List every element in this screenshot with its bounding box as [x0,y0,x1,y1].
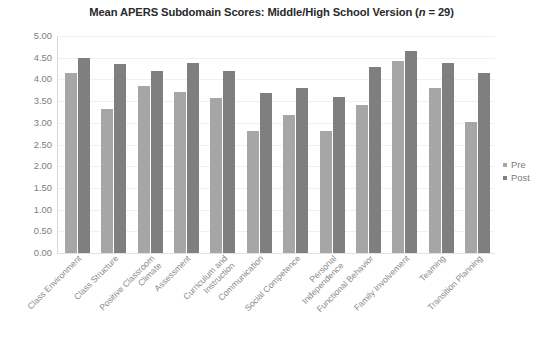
bar-pre[interactable] [392,61,404,253]
bar-pre[interactable] [174,92,186,253]
bar-pre[interactable] [465,122,477,254]
bar-chart: Mean APERS Subdomain Scores: Middle/High… [0,0,543,338]
bar-group [138,36,163,253]
legend-swatch-icon [503,163,507,167]
legend-item-pre[interactable]: Pre [503,158,543,171]
legend-label: Post [511,173,530,182]
legend-item-post[interactable]: Post [503,171,543,184]
y-tick-label: 0.50 [8,226,52,235]
chart-legend: PrePost [503,158,543,184]
bar-group [174,36,199,253]
bar-group [210,36,235,253]
bar-group [392,36,417,253]
bar-group [101,36,126,253]
bar-group [356,36,381,253]
bar-post[interactable] [260,93,272,253]
legend-swatch-icon [503,176,507,180]
bar-pre[interactable] [210,98,222,253]
y-tick-label: 0.00 [8,248,52,257]
bar-post[interactable] [478,73,490,253]
bar-post[interactable] [151,71,163,253]
y-tick-label: 3.00 [8,118,52,127]
bar-group [247,36,272,253]
bar-post[interactable] [333,97,345,253]
bar-pre[interactable] [101,109,113,253]
x-axis-tick-labels: Class EnvironmentClass StructurePositive… [58,254,495,338]
bar-post[interactable] [223,71,235,253]
plot-area [58,36,495,253]
bar-pre[interactable] [283,115,295,253]
y-tick-label: 3.50 [8,96,52,105]
y-tick-label: 1.00 [8,205,52,214]
bar-pre[interactable] [429,88,441,253]
bar-post[interactable] [114,64,126,253]
title-sample-size-symbol: n [419,6,426,18]
bar-post[interactable] [405,51,417,253]
bar-pre[interactable] [65,73,77,253]
bar-group [283,36,308,253]
bar-group [429,36,454,253]
y-tick-label: 1.50 [8,183,52,192]
bar-post[interactable] [369,67,381,253]
bar-post[interactable] [187,63,199,253]
bar-pre[interactable] [138,86,150,253]
y-tick-label: 4.50 [8,53,52,62]
bar-group [465,36,490,253]
bar-pre[interactable] [320,131,332,253]
bar-post[interactable] [442,63,454,253]
chart-title: Mean APERS Subdomain Scores: Middle/High… [0,6,543,18]
bar-pre[interactable] [356,105,368,253]
y-tick-label: 2.50 [8,140,52,149]
bar-post[interactable] [296,88,308,253]
bar-group [65,36,90,253]
legend-label: Pre [511,160,526,169]
bar-group [320,36,345,253]
bar-pre[interactable] [247,131,259,253]
y-tick-label: 2.00 [8,161,52,170]
y-tick-label: 4.00 [8,74,52,83]
y-tick-label: 5.00 [8,31,52,40]
bar-post[interactable] [78,58,90,253]
